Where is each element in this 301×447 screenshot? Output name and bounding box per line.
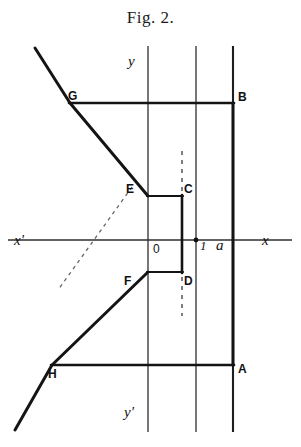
x-negative-axis-label: x' [14, 233, 24, 248]
figure-container: Fig. 2. x' x y y' 0 1 a [0, 0, 301, 447]
parameter-a-tick-label: a [216, 238, 224, 253]
x-positive-axis-label: x [262, 233, 269, 248]
figure-drawing [0, 0, 301, 447]
point-label-e: E [126, 183, 134, 195]
unit-tick-label: 1 [200, 239, 207, 252]
curve-upper-left-branch [35, 48, 148, 196]
dashed-asymptote-through-origin [58, 187, 132, 290]
point-label-h: H [48, 368, 57, 380]
point-label-d: D [184, 275, 193, 287]
point-label-a: A [238, 363, 247, 375]
point-label-b: B [238, 91, 247, 103]
point-label-g: G [68, 90, 77, 102]
origin-label: 0 [153, 243, 160, 255]
point-label-c: C [184, 183, 193, 195]
y-negative-axis-label: y' [124, 405, 134, 420]
point-label-f: F [124, 275, 131, 287]
unit-point-marker [194, 238, 199, 243]
y-positive-axis-label: y [128, 54, 135, 69]
